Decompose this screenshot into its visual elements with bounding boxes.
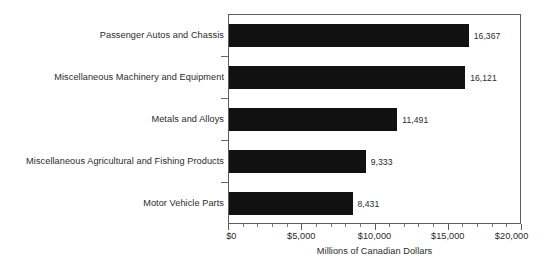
y-axis-tick-2 (221, 98, 228, 99)
x-axis-minor-tick-18000 (492, 224, 493, 227)
x-axis-major-tick-15000 (448, 224, 449, 230)
x-axis-label-1: $5,000 (287, 231, 315, 241)
bar-value-label-3: 9,333 (371, 157, 393, 167)
bar-motor-vehicle-parts (229, 192, 353, 215)
bar-miscellaneous-machinery-and-equipment (229, 66, 465, 89)
x-axis-title: Millions of Canadian Dollars (228, 246, 521, 256)
x-axis-minor-tick-6000 (316, 224, 317, 227)
bar-value-label-2: 11,491 (402, 115, 428, 125)
bar-value-label-1: 16,121 (470, 73, 497, 83)
category-label-3: Miscellaneous Agricultural and Fishing P… (0, 156, 224, 166)
x-axis-minor-tick-16000 (462, 224, 463, 227)
x-axis-major-tick-10000 (375, 224, 376, 230)
bar-value-label-4: 8,431 (358, 199, 380, 209)
x-axis-minor-tick-11000 (389, 224, 390, 227)
x-axis-minor-tick-19000 (506, 224, 507, 227)
x-axis-minor-tick-8000 (345, 224, 346, 227)
bar-metals-and-alloys (229, 108, 397, 131)
x-axis-minor-tick-12000 (404, 224, 405, 227)
category-label-4: Motor Vehicle Parts (0, 198, 224, 208)
y-axis-tick-4 (221, 182, 228, 183)
x-axis-label-4: $20,000 (495, 231, 529, 241)
x-axis-label-3: $15,000 (431, 231, 465, 241)
category-label-0: Passenger Autos and Chassis (0, 30, 224, 40)
category-label-1: Miscellaneous Machinery and Equipment (0, 72, 224, 82)
x-axis-minor-tick-17000 (477, 224, 478, 227)
plot-inner: 16,367 16,121 11,491 9,333 8,431 (229, 15, 520, 223)
y-axis-tick-1 (221, 56, 228, 57)
x-axis-minor-tick-4000 (287, 224, 288, 227)
x-axis-minor-tick-1000 (243, 224, 244, 227)
x-axis-minor-tick-13000 (418, 224, 419, 227)
x-axis-label-0: $0 (226, 231, 236, 241)
bar-value-label-0: 16,367 (474, 31, 501, 41)
y-axis-tick-3 (221, 140, 228, 141)
x-axis-minor-tick-3000 (272, 224, 273, 227)
x-axis-major-tick-20000 (521, 224, 522, 230)
plot-area: 16,367 16,121 11,491 9,333 8,431 (228, 14, 521, 224)
x-axis-minor-tick-2000 (257, 224, 258, 227)
x-axis-label-2: $10,000 (358, 231, 392, 241)
x-axis-major-tick-0 (228, 224, 229, 230)
bar-miscellaneous-agricultural-and-fishing-products (229, 150, 366, 173)
x-axis-minor-tick-9000 (360, 224, 361, 227)
x-axis-major-tick-5000 (301, 224, 302, 230)
bar-chart: Passenger Autos and Chassis Miscellaneou… (0, 0, 549, 270)
category-axis: Passenger Autos and Chassis Miscellaneou… (0, 14, 224, 224)
category-label-2: Metals and Alloys (0, 114, 224, 124)
x-axis-minor-tick-7000 (331, 224, 332, 227)
bar-passenger-autos-and-chassis (229, 24, 469, 47)
x-axis-minor-tick-14000 (433, 224, 434, 227)
